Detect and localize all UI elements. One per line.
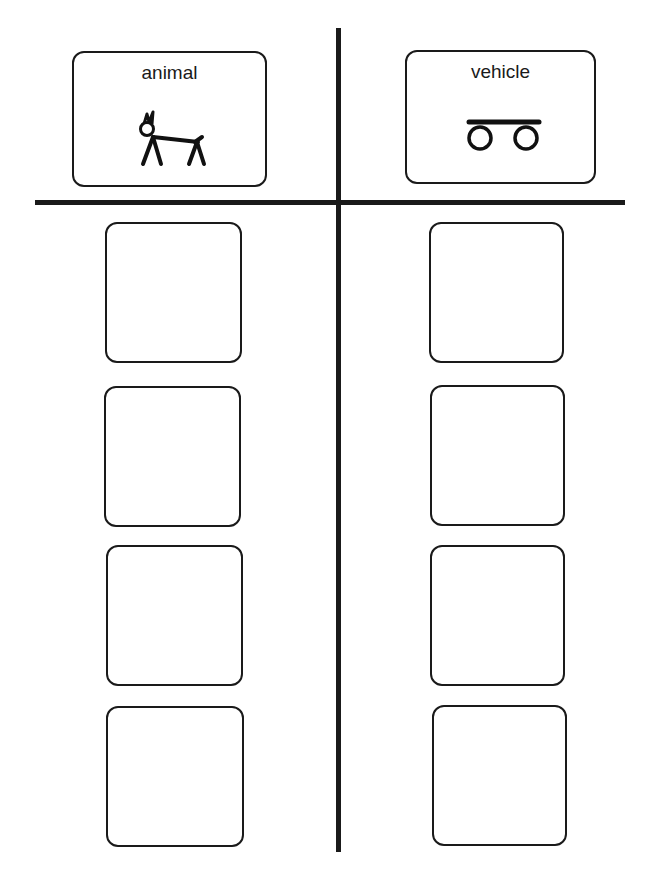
dog-icon bbox=[132, 108, 212, 173]
cart-wheels-icon bbox=[459, 114, 549, 164]
sort-slot-vehicle-2[interactable] bbox=[430, 385, 565, 526]
category-card-animal: animal bbox=[72, 51, 267, 187]
sort-slot-vehicle-4[interactable] bbox=[432, 705, 567, 846]
sort-slot-animal-4[interactable] bbox=[106, 706, 244, 847]
category-label-vehicle: vehicle bbox=[407, 61, 594, 83]
sort-slot-animal-1[interactable] bbox=[105, 222, 242, 363]
sort-slot-animal-3[interactable] bbox=[106, 545, 243, 686]
sort-slot-vehicle-1[interactable] bbox=[429, 222, 564, 363]
category-label-animal: animal bbox=[74, 62, 265, 84]
sort-slot-animal-2[interactable] bbox=[104, 386, 241, 527]
horizontal-divider bbox=[35, 200, 625, 205]
sort-slot-vehicle-3[interactable] bbox=[430, 545, 565, 686]
category-card-vehicle: vehicle bbox=[405, 50, 596, 184]
vertical-divider bbox=[336, 28, 341, 852]
